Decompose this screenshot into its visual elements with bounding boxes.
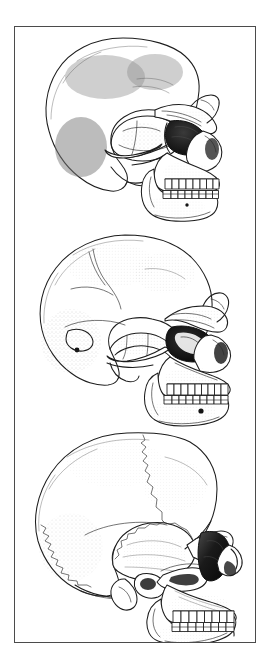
plate-frame (14, 26, 256, 643)
lower-teeth-bottom-skull (171, 623, 234, 632)
upper-teeth-bottom-skull (173, 611, 234, 623)
upper-teeth-middle-skull (167, 384, 228, 395)
upper-teeth-top-skull (165, 179, 219, 189)
lower-teeth-middle-skull (164, 396, 228, 405)
figure-panel-bottom (15, 427, 255, 642)
lower-teeth-top-skull (162, 191, 219, 199)
figure-panel-top (15, 27, 255, 223)
skull-top-drawing (15, 27, 255, 223)
illustration-plate (0, 0, 270, 666)
figure-panel-middle (15, 223, 255, 427)
skull-middle-drawing (15, 223, 255, 427)
skull-bottom-drawing (15, 427, 255, 642)
